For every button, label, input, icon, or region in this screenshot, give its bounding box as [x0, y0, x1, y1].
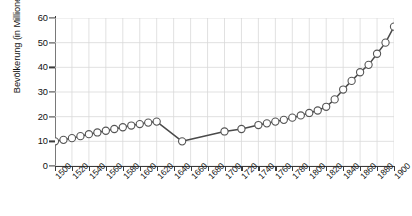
- y-tick-mark: [49, 67, 55, 68]
- x-tick-mark: [343, 166, 344, 171]
- y-tick-mark: [49, 116, 55, 117]
- x-tick-mark: [377, 166, 378, 171]
- x-tick-mark: [309, 166, 310, 171]
- x-tick-mark: [55, 166, 56, 171]
- y-tick-mark: [49, 141, 55, 142]
- x-tick-mark: [123, 166, 124, 171]
- x-tick-mark: [225, 166, 226, 171]
- x-tick-mark: [208, 166, 209, 171]
- y-tick-mark: [49, 91, 55, 92]
- x-tick-mark: [394, 166, 395, 171]
- y-tick-mark: [49, 42, 55, 43]
- x-tick-mark: [174, 166, 175, 171]
- x-tick-mark: [89, 166, 90, 171]
- x-tick-mark: [360, 166, 361, 171]
- x-tick-mark: [275, 166, 276, 171]
- x-tick-mark: [292, 166, 293, 171]
- x-tick-mark: [72, 166, 73, 171]
- y-tick-mark: [49, 17, 55, 18]
- x-tick-mark: [106, 166, 107, 171]
- x-tick-mark: [140, 166, 141, 171]
- x-tick-mark: [241, 166, 242, 171]
- x-tick-mark: [157, 166, 158, 171]
- x-tick-mark: [191, 166, 192, 171]
- x-tick-mark: [326, 166, 327, 171]
- x-tick-mark: [258, 166, 259, 171]
